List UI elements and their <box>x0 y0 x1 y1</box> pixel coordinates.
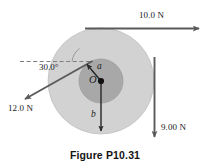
center-point-marker <box>98 78 104 84</box>
physics-figure: 10.0 N 9.00 N 12.0 N 30.0° a O b Figure … <box>0 0 210 168</box>
force-diagram <box>0 0 210 168</box>
center-label-O: O <box>89 75 97 86</box>
outer-radius-label-b: b <box>91 110 96 120</box>
force-label-9N: 9.00 N <box>161 123 186 132</box>
figure-caption: Figure P10.31 <box>0 149 210 161</box>
inner-radius-label-a: a <box>97 62 102 72</box>
force-label-12N: 12.0 N <box>8 104 33 113</box>
angle-label: 30.0° <box>39 63 58 72</box>
force-label-10N: 10.0 N <box>139 11 164 20</box>
